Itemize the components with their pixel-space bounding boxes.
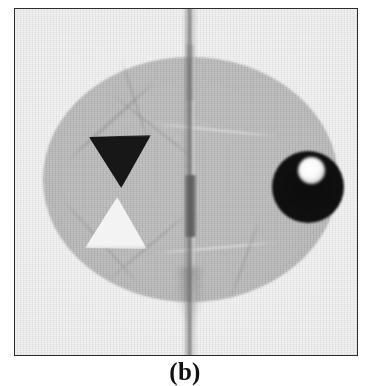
metal-rod-shadow (175, 267, 205, 327)
metal-rod (185, 175, 196, 237)
bright-inclusion (298, 157, 325, 184)
figure-caption: (b) (0, 358, 370, 386)
scan-image-frame (14, 8, 358, 356)
figure-panel: (b) (0, 0, 370, 386)
metal-rod-upper-segment (185, 45, 195, 101)
